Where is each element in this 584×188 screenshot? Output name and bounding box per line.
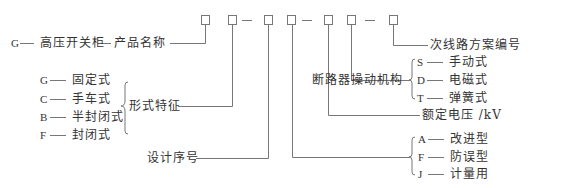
code-box-4 — [288, 16, 296, 25]
breaker-option-code: S — [417, 55, 423, 69]
breaker-option-code: D — [417, 73, 425, 87]
product-code: G — [11, 36, 19, 50]
product-meaning: 产品名称 — [114, 36, 166, 50]
form-option-code: G — [40, 73, 48, 87]
code-box-2 — [229, 16, 237, 25]
variant-option-label: 改进型 — [450, 132, 489, 146]
breaker-option-code: T — [417, 91, 424, 105]
secondary-circuit-label: 次线路方案编号 — [430, 38, 521, 52]
breaker-mechanism-label: 断路器操动机构 — [312, 73, 403, 87]
variant-option-code: F — [418, 150, 424, 164]
code-box-7 — [390, 16, 398, 25]
variant-option-code: J — [418, 167, 422, 181]
form-option-label: 封闭式 — [72, 128, 111, 142]
code-box-6 — [348, 16, 356, 25]
breaker-option-label: 电磁式 — [449, 73, 488, 87]
product-label: 高压开关柜 — [40, 36, 105, 50]
variant-option-code: A — [418, 132, 426, 146]
form-option-code: B — [40, 110, 47, 124]
rated-voltage-label: 额定电压 /kV — [422, 108, 502, 122]
variant-option-label: 防误型 — [450, 150, 489, 164]
form-option-label: 半封闭式 — [72, 110, 124, 124]
code-box-1 — [202, 16, 210, 25]
code-box-5 — [325, 16, 333, 25]
breaker-option-label: 手动式 — [449, 55, 488, 69]
code-box-3 — [265, 16, 273, 25]
breaker-option-label: 弹簧式 — [449, 91, 488, 105]
design-serial-label: 设计序号 — [147, 151, 199, 165]
form-option-label: 手车式 — [72, 92, 111, 106]
form-option-code: C — [40, 92, 47, 106]
form-option-label: 固定式 — [72, 73, 111, 87]
form-option-code: F — [40, 128, 46, 142]
variant-option-label: 计量用 — [450, 167, 489, 181]
form-features-label: 形式特征 — [129, 99, 181, 113]
